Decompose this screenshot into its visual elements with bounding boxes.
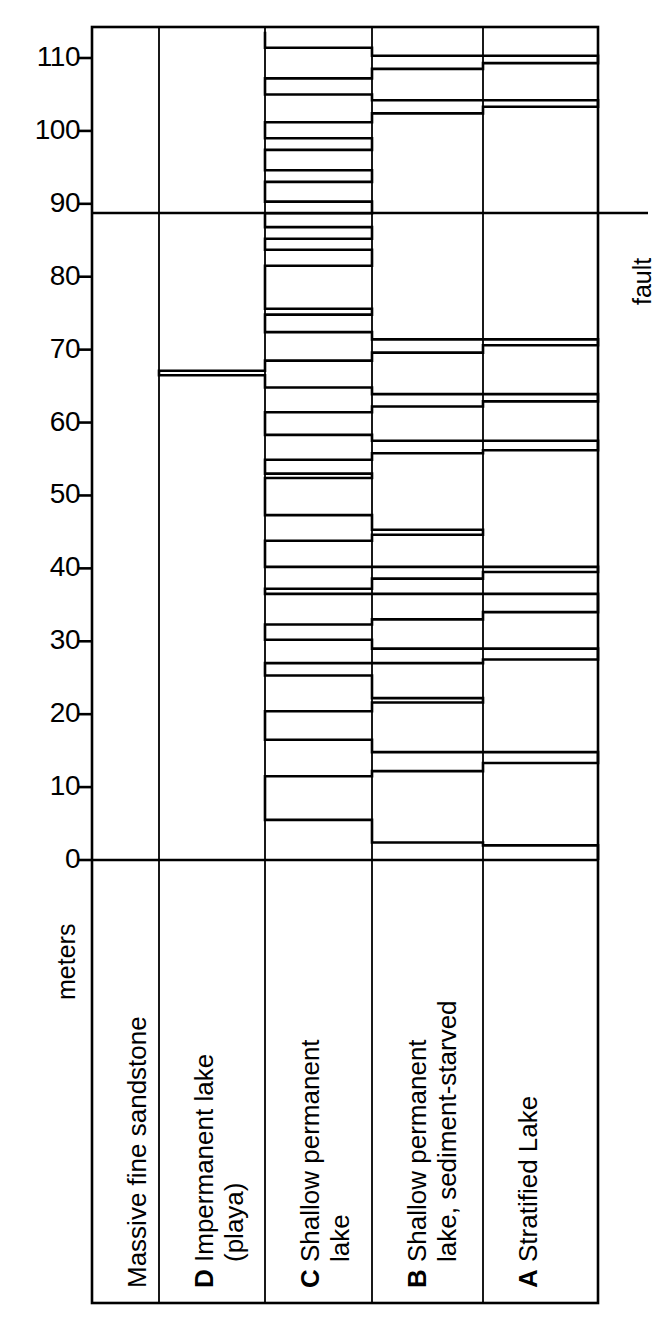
facies-caption-c: C Shallow permanentlake xyxy=(295,1039,355,1288)
facies-caption-line1: Massive fine sandstone xyxy=(122,1016,152,1288)
facies-caption-a: A Stratified Lake xyxy=(513,1096,543,1288)
y-tick-label-60: 60 xyxy=(18,408,80,436)
fault-label: fault xyxy=(628,258,657,305)
facies-caption-sandstone: Massive fine sandstone xyxy=(122,1016,152,1288)
facies-code-b: B xyxy=(402,1269,432,1288)
facies-caption-line1: Stratified Lake xyxy=(513,1096,543,1262)
y-tick-label-30: 30 xyxy=(18,626,80,654)
y-tick-label-10: 10 xyxy=(18,772,80,800)
facies-caption-line1: Shallow permanent xyxy=(295,1039,325,1262)
facies-code-d: D xyxy=(189,1269,219,1288)
y-axis-caption: meters xyxy=(52,924,81,1000)
y-tick-label-20: 20 xyxy=(18,699,80,727)
facies-caption-line1: Impermanent lake xyxy=(189,1054,219,1262)
facies-caption-line1: Shallow permanent xyxy=(402,1039,432,1262)
facies-code-c: C xyxy=(295,1269,325,1288)
y-tick-label-50: 50 xyxy=(18,480,80,508)
y-tick-label-100: 100 xyxy=(18,116,80,144)
facies-caption-b: B Shallow permanentlake, sediment-starve… xyxy=(402,1000,462,1288)
facies-caption-line2: lake xyxy=(325,1039,355,1262)
y-tick-label-70: 70 xyxy=(18,335,80,363)
facies-caption-line2: lake, sediment-starved xyxy=(432,1000,462,1262)
y-tick-label-0: 0 xyxy=(18,845,80,873)
facies-caption-d: D Impermanent lake(playa) xyxy=(189,1054,249,1288)
y-tick-label-90: 90 xyxy=(18,189,80,217)
stratigraphic-facies-log: 1101009080706050403020100 meters fault M… xyxy=(0,0,664,1335)
y-tick-label-110: 110 xyxy=(18,43,80,71)
facies-caption-line2: (playa) xyxy=(219,1054,249,1262)
y-tick-label-80: 80 xyxy=(18,262,80,290)
facies-step-trace xyxy=(159,32,598,860)
facies-code-a: A xyxy=(513,1269,543,1288)
axis-ticks xyxy=(78,58,92,860)
y-tick-label-40: 40 xyxy=(18,553,80,581)
